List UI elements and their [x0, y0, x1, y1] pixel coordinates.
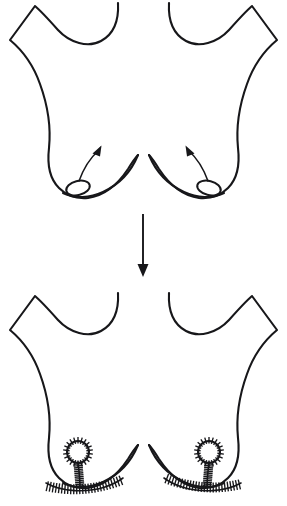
scar-suture-tick — [68, 484, 69, 494]
torso-outline-right-postop — [149, 293, 277, 488]
left-vertical-scar-sutures — [74, 464, 85, 487]
scar-suture-tick — [88, 484, 89, 494]
torso-outline-left-postop — [10, 293, 138, 488]
scar-suture-tick — [235, 480, 237, 490]
scar-suture-tick — [85, 484, 86, 494]
areola-suture-tick — [211, 438, 213, 444]
scar-suture-tick — [224, 482, 225, 492]
scar-suture-tick — [75, 475, 84, 476]
scar-suture-tick — [74, 467, 83, 468]
scar-suture-tick — [204, 469, 213, 470]
areola-suture-tick — [217, 450, 223, 451]
scar-suture-tick — [74, 471, 83, 472]
scar-suture-tick — [52, 483, 54, 493]
right-areola-icon — [198, 441, 220, 463]
scar-suture-tick — [204, 471, 213, 472]
panel-preoperative — [10, 3, 277, 198]
scar-suture-tick — [204, 482, 205, 492]
areola-suture-tick — [86, 453, 92, 454]
areola-suture-tick — [194, 453, 200, 454]
right-breast-fold-preop — [149, 155, 224, 197]
right-nipple-elevation-arrow — [186, 146, 209, 182]
illustration-canvas — [0, 0, 287, 506]
scar-suture-tick — [65, 484, 66, 494]
scar-suture-tick — [219, 482, 220, 492]
scar-suture-tick — [204, 475, 213, 476]
left-nipple-icon — [65, 178, 92, 197]
torso-outline-left-preop — [10, 3, 138, 198]
right-nipple-icon — [196, 178, 223, 197]
areola-suture-tick — [194, 450, 200, 451]
scar-suture-tick — [201, 482, 202, 492]
scar-suture-tick — [91, 483, 92, 493]
scar-suture-tick — [49, 482, 51, 492]
scar-suture-tick — [75, 476, 84, 477]
scar-suture-tick — [233, 481, 235, 491]
surgical-illustration-figure — [0, 0, 287, 506]
areola-suture-tick — [80, 438, 82, 444]
scar-suture-tick — [203, 480, 212, 481]
areola-suture-tick — [63, 450, 69, 451]
scar-suture-tick — [74, 473, 83, 474]
scar-suture-tick — [61, 484, 62, 494]
areola-suture-tick — [74, 438, 76, 444]
scar-suture-tick — [82, 484, 83, 494]
scar-suture-tick — [74, 469, 83, 470]
scar-suture-tick — [204, 473, 213, 474]
scar-suture-tick — [75, 478, 84, 479]
areola-suture-tick — [205, 438, 207, 444]
downward-progression-arrow — [138, 214, 149, 277]
scar-suture-tick — [227, 482, 228, 492]
panel-postoperative — [10, 293, 277, 494]
scar-suture-tick — [204, 467, 213, 468]
scar-suture-tick — [75, 480, 84, 481]
scar-suture-tick — [55, 483, 56, 493]
areola-suture-tick — [63, 453, 69, 454]
left-breast-suture-group — [46, 437, 123, 494]
scar-suture-tick — [75, 482, 84, 483]
areola-suture-tick — [86, 450, 92, 451]
left-areola-icon — [67, 441, 89, 463]
left-nipple-elevation-arrow — [79, 146, 102, 182]
scar-suture-tick — [230, 481, 231, 491]
scar-suture-tick — [222, 482, 223, 492]
right-breast-suture-group — [164, 437, 241, 492]
scar-suture-tick — [58, 483, 59, 493]
areola-suture-tick — [217, 453, 223, 454]
scar-suture-tick — [203, 478, 212, 479]
torso-outline-right-preop — [149, 3, 277, 198]
scar-suture-tick — [203, 476, 212, 477]
left-breast-fold-preop — [63, 155, 138, 197]
